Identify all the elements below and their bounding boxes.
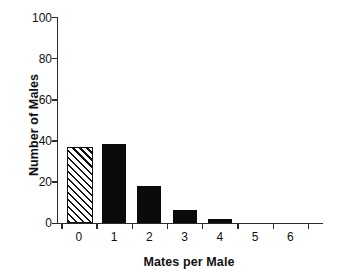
x-tick-edge-6 bbox=[273, 224, 274, 229]
x-tick-edge-0 bbox=[61, 224, 62, 229]
x-tick-label-6: 6 bbox=[275, 231, 305, 244]
y-tick-label-group: 100 80 60 40 20 0 bbox=[12, 0, 52, 278]
y-tick-100 bbox=[52, 17, 57, 18]
y-tick-80 bbox=[52, 58, 57, 59]
plot-area bbox=[57, 17, 323, 224]
x-tick-edge-7 bbox=[308, 224, 309, 229]
x-tick-label-2: 2 bbox=[134, 231, 164, 244]
bar-1 bbox=[102, 144, 126, 222]
y-axis-line bbox=[57, 17, 58, 224]
y-tick-0 bbox=[52, 223, 57, 224]
bar-2 bbox=[137, 186, 161, 223]
x-tick-label-5: 5 bbox=[240, 231, 270, 244]
x-tick-label-4: 4 bbox=[205, 231, 235, 244]
y-tick-label-40: 40 bbox=[18, 135, 52, 147]
y-tick-40 bbox=[52, 140, 57, 141]
y-tick-20 bbox=[52, 181, 57, 182]
y-tick-label-100: 100 bbox=[18, 12, 52, 24]
x-tick-edge-2 bbox=[132, 224, 133, 229]
chart-figure: Number of Males 100 80 60 40 20 0 012345… bbox=[0, 0, 343, 278]
caption-fragment bbox=[6, 269, 337, 278]
x-tick-label-0: 0 bbox=[64, 231, 94, 244]
x-tick-edge-1 bbox=[96, 224, 97, 229]
y-tick-label-80: 80 bbox=[18, 53, 52, 65]
y-tick-60 bbox=[52, 99, 57, 100]
x-tick-edge-4 bbox=[202, 224, 203, 229]
bar-3 bbox=[173, 210, 197, 222]
y-tick-label-20: 20 bbox=[18, 176, 52, 188]
x-tick-label-1: 1 bbox=[99, 231, 129, 244]
bar-4 bbox=[208, 219, 232, 223]
x-tick-edge-5 bbox=[237, 224, 238, 229]
x-axis-label: Mates per Male bbox=[55, 255, 323, 269]
y-tick-label-60: 60 bbox=[18, 94, 52, 106]
y-tick-label-0: 0 bbox=[18, 217, 52, 229]
x-tick-label-3: 3 bbox=[170, 231, 200, 244]
x-tick-edge-3 bbox=[167, 224, 168, 229]
bar-0 bbox=[67, 147, 93, 223]
